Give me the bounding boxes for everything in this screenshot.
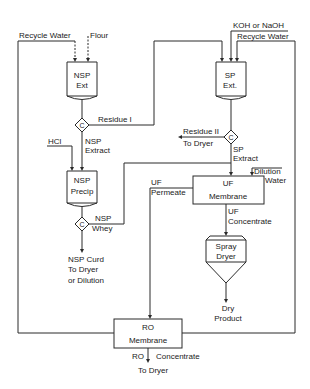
nsp-precip-label-2: Precip [71, 187, 94, 196]
hcl-label: HCl [48, 137, 62, 146]
nsp-extract-label-1: NSP [85, 137, 101, 146]
sp-ext-label-2: Ext. [223, 81, 237, 90]
ro-membrane-label-2: Membrane [129, 336, 168, 345]
recycle-water-right-label: Recycle Water [237, 32, 289, 41]
nsp-whey-label-2: Whey [92, 224, 112, 233]
ro-concentrate-label-1: RO [132, 352, 144, 361]
separator-c3-label: C [79, 221, 84, 228]
spray-dryer-label-2: Dryer [216, 252, 236, 261]
nsp-precip-label-1: NSP [74, 176, 90, 185]
residue-1-line [89, 41, 222, 125]
nsp-curd-label-3: or Dilution [68, 276, 104, 285]
uf-permeate-label-2: Permeate [151, 188, 186, 197]
separator-c2-label: C [228, 134, 233, 141]
uf-concentrate-label-2: Concentrate [228, 217, 272, 226]
ro-concentrate-dest-label: To Dryer [138, 366, 169, 375]
flour-label: Flour [90, 31, 109, 40]
nsp-curd-label-1: NSP Curd [68, 255, 104, 264]
ro-membrane-label-1: RO [142, 323, 154, 332]
residue-1-label: Residue I [98, 115, 132, 124]
dry-product-label-2: Product [214, 314, 242, 323]
recycle-water-left-label: Recycle Water [19, 31, 71, 40]
uf-membrane-label-1: UF [223, 179, 234, 188]
nsp-ext-label-2: Ext [76, 81, 88, 90]
uf-permeate-label-1: UF [151, 178, 162, 187]
residue-2-label: Residue II [183, 127, 219, 136]
residue-2-dest-label: To Dryer [183, 139, 214, 148]
recycle-water-left-line [18, 41, 114, 333]
uf-permeate-line [150, 188, 193, 317]
process-flow-diagram: Recycle Water Flour KOH or NaOH Recycle … [0, 0, 310, 389]
ro-concentrate-label-2: Concentrate [156, 352, 200, 361]
dilution-label: Dilution [254, 167, 281, 176]
spray-dryer-label-1: Spray [216, 242, 237, 251]
sp-extract-label-1: SP [233, 145, 244, 154]
hcl-line [47, 146, 72, 169]
dry-product-label-1: Dry [222, 304, 234, 313]
sp-ext-label-1: SP [225, 71, 236, 80]
uf-concentrate-label-1: UF [228, 207, 239, 216]
sp-extract-label-2: Extract [233, 154, 259, 163]
separator-c1-label: C [79, 122, 84, 129]
nsp-extract-label-2: Extract [85, 146, 111, 155]
uf-membrane-label-2: Membrane [209, 192, 248, 201]
nsp-ext-label-1: NSP [74, 71, 90, 80]
koh-naoh-label: KOH or NaOH [233, 21, 284, 30]
water-label: Water [265, 176, 286, 185]
nsp-curd-label-2: To Dryer [68, 265, 99, 274]
nsp-whey-label-1: NSP [95, 214, 111, 223]
